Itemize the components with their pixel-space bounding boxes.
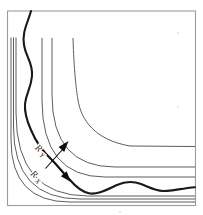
streamline-mid-1 [42,38,195,177]
streamline-outer-2 [14,38,196,200]
diagram-canvas: R Y R X [0,0,203,215]
rx-label: R X [26,168,45,187]
scan-speckle [177,106,179,108]
corner-flow-figure: R Y R X [0,0,203,215]
scan-speckle [119,211,121,213]
streamline-inner [73,38,195,147]
rx-arrow-shaft [44,151,65,175]
scan-speckle [177,32,179,34]
thick-wavy-streamline [24,11,195,194]
ry-label: R Y [31,142,50,161]
ry-label-sub: Y [38,151,47,160]
